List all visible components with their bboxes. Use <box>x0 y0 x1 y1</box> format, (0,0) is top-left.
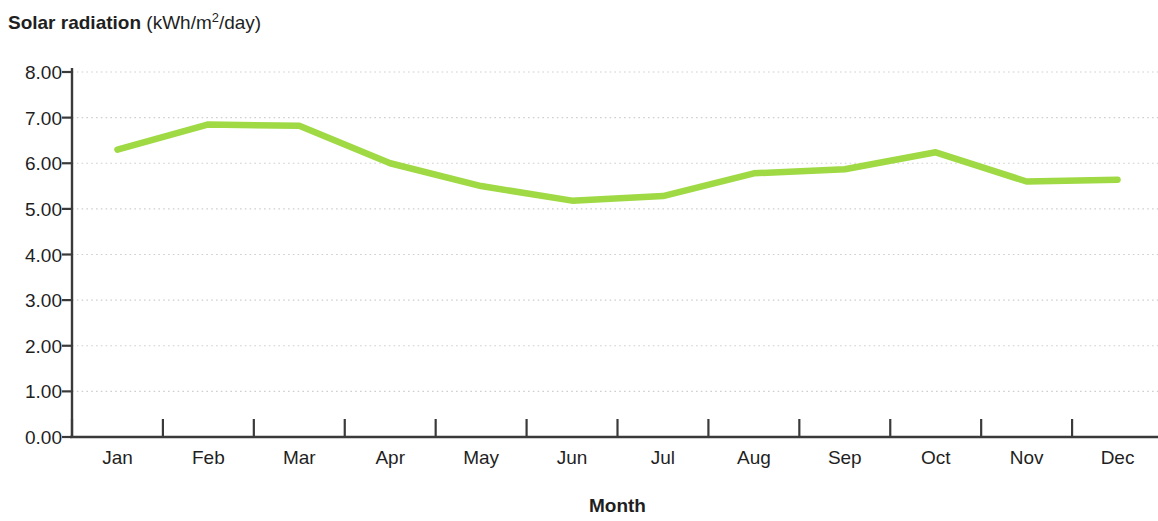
x-axis-tick-label: Apr <box>345 447 436 469</box>
y-axis-tick-label: 3.00 <box>0 291 62 310</box>
y-axis-tick-label: 8.00 <box>0 63 62 82</box>
y-axis-tick-label: 7.00 <box>0 109 62 128</box>
y-axis-tick-label: 6.00 <box>0 154 62 173</box>
x-axis-tick-label: Aug <box>708 447 799 469</box>
y-axis-tick-label: 2.00 <box>0 337 62 356</box>
x-axis-tick-label: Feb <box>163 447 254 469</box>
y-axis-tick-labels: 8.007.006.005.004.003.002.001.000.00 <box>0 0 62 521</box>
x-axis-tick-label: Mar <box>254 447 345 469</box>
x-axis-tick-label: Jul <box>618 447 709 469</box>
x-axis-ticks <box>72 419 1072 437</box>
y-axis-tick-label: 0.00 <box>0 428 62 447</box>
y-axis-tick-label: 1.00 <box>0 382 62 401</box>
x-axis-tick-label: Oct <box>890 447 981 469</box>
x-axis-tick-label: Sep <box>799 447 890 469</box>
y-axis-ticks <box>62 72 72 437</box>
x-axis-tick-label: Jan <box>72 447 163 469</box>
x-axis-tick-label: Dec <box>1072 447 1158 469</box>
solar-radiation-chart: Solar radiation (kWh/m2/day) 8.007.006.0… <box>0 0 1158 521</box>
x-axis-tick-labels: JanFebMarAprMayJunJulAugSepOctNovDec <box>0 447 1158 477</box>
y-axis-tick-label: 5.00 <box>0 200 62 219</box>
data-series-line <box>117 124 1117 200</box>
x-axis-tick-label: Jun <box>527 447 618 469</box>
plot-area <box>0 0 1158 521</box>
x-axis-tick-label: May <box>436 447 527 469</box>
x-axis-title: Month <box>72 495 1158 517</box>
y-axis-tick-label: 4.00 <box>0 246 62 265</box>
x-axis-tick-label: Nov <box>981 447 1072 469</box>
